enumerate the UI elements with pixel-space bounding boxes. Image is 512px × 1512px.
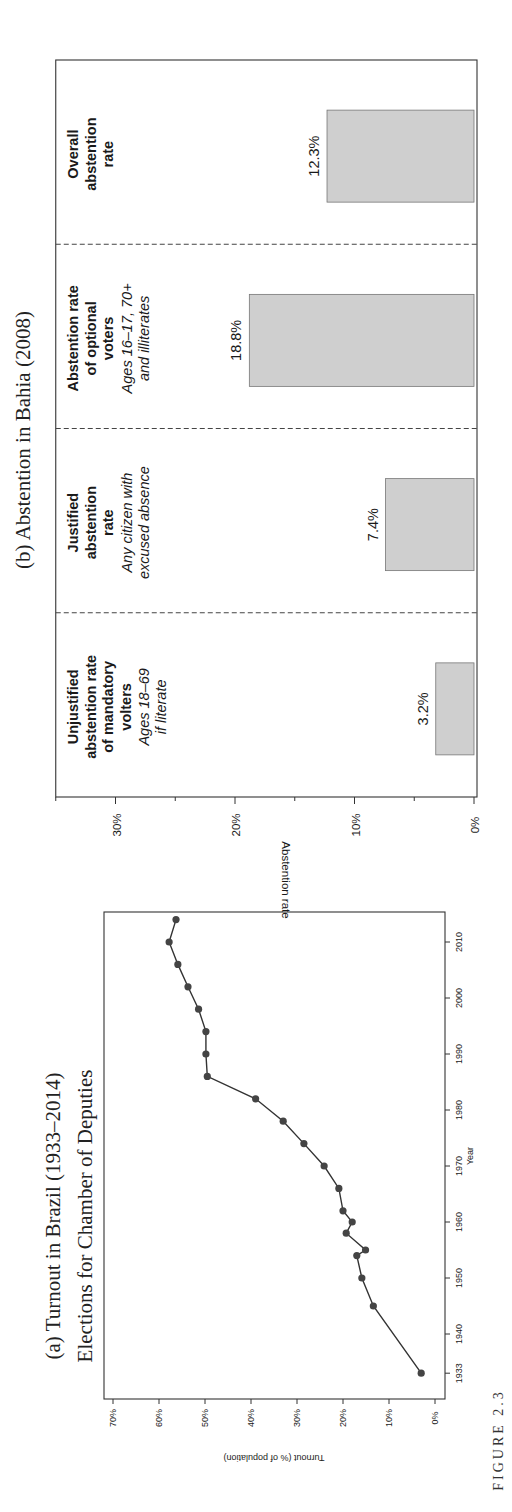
line-x-axis: 193319401950196019701980199020002010 <box>445 932 464 1383</box>
abstention-bar-chart: (b) Abstention in Bahia (2008) 3.2%7.4%1… <box>11 60 481 919</box>
data-point <box>280 1118 287 1125</box>
category-title-line: abstention <box>83 486 99 559</box>
bar-chart-title: (b) Abstention in Bahia (2008) <box>11 311 35 569</box>
data-point <box>184 983 191 990</box>
bar-value-labels: 3.2%7.4%18.8%12.3% <box>228 135 430 725</box>
line-x-axis-label: Year <box>465 1147 475 1165</box>
bar-y-axis-label: Abstention rate <box>280 841 292 918</box>
y-tick-label: 30% <box>111 813 123 836</box>
data-point <box>349 1218 356 1225</box>
bar <box>327 110 474 202</box>
x-tick-label: 1960 <box>454 1212 464 1232</box>
category-title-line: Unjustified <box>65 669 81 744</box>
category-title-line: abstention <box>83 117 99 190</box>
data-point <box>202 1050 209 1057</box>
y-tick-label: 0% <box>469 817 481 834</box>
x-tick-label: 2010 <box>454 932 464 952</box>
data-point <box>195 1006 202 1013</box>
y-tick-label: 60% <box>154 1409 164 1427</box>
data-point <box>172 916 179 923</box>
category-labels: Unjustifiedabstention rateof mandatoryvo… <box>65 117 169 758</box>
category-title-line: of mandatory <box>100 661 116 753</box>
bar-value-label: 7.4% <box>365 508 381 541</box>
bar-value-label: 3.2% <box>415 692 431 725</box>
turnout-series-line <box>169 920 421 1374</box>
data-point <box>252 1095 259 1102</box>
data-point <box>339 1207 346 1214</box>
data-point <box>166 938 173 945</box>
category-note-line: Any citizen with <box>119 473 135 574</box>
category-title-line: volters <box>118 683 134 731</box>
category-title-line: rate <box>100 141 116 168</box>
y-tick-label: 10% <box>350 813 362 836</box>
category-title-line: of optional <box>83 301 99 375</box>
bar <box>386 479 474 571</box>
data-point <box>300 1140 307 1147</box>
data-point <box>418 1370 425 1377</box>
category-title-line: abstention rate <box>83 655 99 759</box>
figure-label: FIGURE 2.3 <box>491 1389 506 1491</box>
bar <box>249 294 474 386</box>
category-note-line: Ages 18–69 <box>136 668 152 746</box>
category-note-line: and illiterates <box>136 296 152 381</box>
line-y-axis: 0%10%20%30%40%50%60%70% <box>108 1399 440 1427</box>
turnout-points <box>166 916 425 1377</box>
category-note-line: excused absence <box>136 466 152 579</box>
data-point <box>343 1230 350 1237</box>
data-point <box>204 1073 211 1080</box>
line-chart-frame <box>104 912 445 1399</box>
data-point <box>353 1252 360 1259</box>
x-tick-label: 1950 <box>454 1268 464 1288</box>
x-tick-label: 1980 <box>454 1100 464 1120</box>
data-point <box>370 1302 377 1309</box>
y-tick-label: 10% <box>384 1409 394 1427</box>
turnout-line-chart: (a) Turnout in Brazil (1933–2014) Electi… <box>41 912 475 1463</box>
y-tick-label: 40% <box>246 1409 256 1427</box>
x-tick-label: 1933 <box>454 1363 464 1383</box>
category-note-line: Ages 16–17, 70+ <box>119 283 135 394</box>
category-title-line: rate <box>100 509 116 536</box>
data-point <box>358 1274 365 1281</box>
y-tick-label: 0% <box>430 1411 440 1424</box>
x-tick-label: 1940 <box>454 1324 464 1344</box>
y-tick-label: 30% <box>292 1409 302 1427</box>
category-title-line: voters <box>100 317 116 361</box>
bars <box>249 110 474 755</box>
y-tick-label: 20% <box>230 813 242 836</box>
category-note-line: if literate <box>153 679 169 734</box>
y-tick-label: 50% <box>200 1409 210 1427</box>
figure-page: (b) Abstention in Bahia (2008) 3.2%7.4%1… <box>0 0 512 1512</box>
data-point <box>362 1246 369 1253</box>
category-title-line: Overall <box>65 130 81 179</box>
x-tick-label: 2000 <box>454 988 464 1008</box>
bar-value-label: 18.8% <box>228 320 244 361</box>
data-point <box>174 961 181 968</box>
data-point <box>321 1162 328 1169</box>
bar-y-axis: 0%10%20%30% <box>56 797 481 837</box>
y-tick-label: 70% <box>108 1409 118 1427</box>
data-point <box>335 1185 342 1192</box>
bar-value-label: 12.3% <box>306 135 322 176</box>
x-tick-label: 1970 <box>454 1156 464 1176</box>
bar <box>436 663 474 755</box>
data-point <box>202 1028 209 1035</box>
category-title-line: Abstention rate <box>65 285 81 391</box>
y-tick-label: 20% <box>338 1409 348 1427</box>
x-tick-label: 1990 <box>454 1044 464 1064</box>
line-chart-subtitle: Elections for Chamber of Deputies <box>73 1070 97 1363</box>
line-chart-title: (a) Turnout in Brazil (1933–2014) <box>41 1073 65 1360</box>
category-title-line: Justified <box>65 493 81 553</box>
line-y-axis-label: Turnout (% of population) <box>223 1453 324 1463</box>
